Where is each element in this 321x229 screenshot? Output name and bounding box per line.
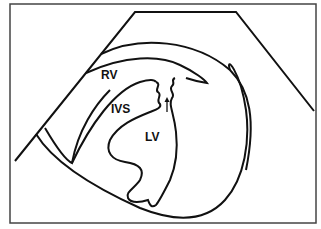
label-lv: LV [145, 130, 159, 144]
label-ivs: IVS [111, 102, 130, 116]
echo-diagram: RV IVS LV [0, 0, 321, 229]
arrow-head-icon [165, 97, 170, 102]
ultrasound-sector-outline [15, 12, 314, 161]
lv-endocardium [108, 78, 176, 206]
ivs-right-ventricular-surface [72, 80, 156, 163]
label-rv: RV [101, 68, 117, 82]
figure-frame [10, 4, 316, 223]
lv-epicardium [36, 64, 247, 217]
